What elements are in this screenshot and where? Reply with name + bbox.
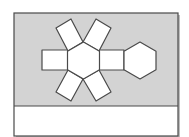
hexagonal-prism-net-diagram	[0, 0, 189, 137]
face-rect-left	[42, 50, 68, 70]
face-rect-right	[99, 50, 124, 70]
answer-area	[14, 106, 178, 136]
